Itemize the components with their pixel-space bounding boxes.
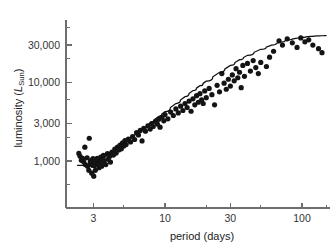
data-points-group: [76, 35, 324, 179]
data-point: [202, 88, 207, 93]
data-point: [267, 55, 272, 60]
x-tick-label: 100: [293, 212, 311, 224]
data-point: [185, 105, 190, 110]
data-point: [294, 45, 299, 50]
y-tick-label: 30,000: [28, 39, 60, 51]
data-point: [235, 75, 240, 80]
y-axis-title: luminosity (LSun): [12, 69, 26, 148]
data-point: [224, 87, 229, 92]
data-point: [143, 129, 148, 134]
data-point: [212, 102, 217, 107]
x-tick-label: 10: [159, 212, 171, 224]
data-point: [207, 86, 212, 91]
data-point: [237, 70, 242, 75]
y-axis-title-prefix: luminosity (: [12, 92, 24, 148]
x-axis-tick-labels: 31030100: [90, 212, 310, 224]
data-point: [222, 81, 227, 86]
data-point: [319, 50, 324, 55]
data-point: [245, 61, 250, 66]
data-point: [82, 145, 87, 150]
data-point: [180, 108, 185, 113]
data-point: [165, 116, 170, 121]
y-axis-ticks: [66, 28, 72, 185]
x-tick-label: 30: [225, 212, 237, 224]
y-axis-tick-labels: 1,0003,00010,00030,000: [28, 39, 60, 167]
y-tick-label: 1,000: [34, 155, 60, 167]
data-point: [188, 109, 193, 114]
data-point: [306, 37, 311, 42]
data-point: [242, 74, 247, 79]
data-point: [256, 71, 261, 76]
data-point: [204, 95, 209, 100]
data-point: [248, 68, 253, 73]
data-point: [228, 83, 233, 88]
data-point: [253, 65, 258, 70]
data-point: [197, 91, 202, 96]
data-point: [139, 138, 144, 143]
data-point: [280, 42, 285, 47]
period-luminosity-scatter-plot: 31030100 1,0003,00010,00030,000 period (…: [0, 0, 336, 250]
axis-lines: [66, 20, 330, 208]
chart-figure: 31030100 1,0003,00010,00030,000 period (…: [0, 0, 336, 250]
data-point: [171, 113, 176, 118]
data-point: [209, 92, 214, 97]
data-point: [240, 63, 245, 68]
y-tick-label: 3,000: [34, 117, 60, 129]
data-point: [264, 64, 269, 69]
data-point: [290, 40, 295, 45]
x-axis-title: period (days): [170, 230, 234, 242]
data-point: [91, 174, 96, 179]
data-point: [108, 159, 113, 164]
data-point: [176, 110, 181, 115]
data-point: [132, 137, 137, 142]
data-point: [258, 60, 263, 65]
svg-text:luminosity (LSun): luminosity (LSun): [12, 69, 26, 148]
y-axis-title-subscript: Sun: [17, 72, 26, 86]
data-point: [251, 58, 256, 63]
data-point: [201, 101, 206, 106]
y-axis-title-suffix: ): [12, 69, 24, 73]
data-point: [214, 83, 219, 88]
data-point: [316, 46, 321, 51]
data-point: [310, 42, 315, 47]
data-point: [230, 72, 235, 77]
data-point: [87, 136, 92, 141]
data-point: [157, 125, 162, 130]
data-point: [226, 77, 231, 82]
y-tick-label: 10,000: [28, 76, 60, 88]
x-axis-ticks: [93, 203, 326, 209]
data-point: [217, 89, 222, 94]
x-tick-label: 3: [90, 212, 96, 224]
data-point: [103, 162, 108, 167]
data-point: [239, 85, 244, 90]
data-point: [271, 49, 276, 54]
